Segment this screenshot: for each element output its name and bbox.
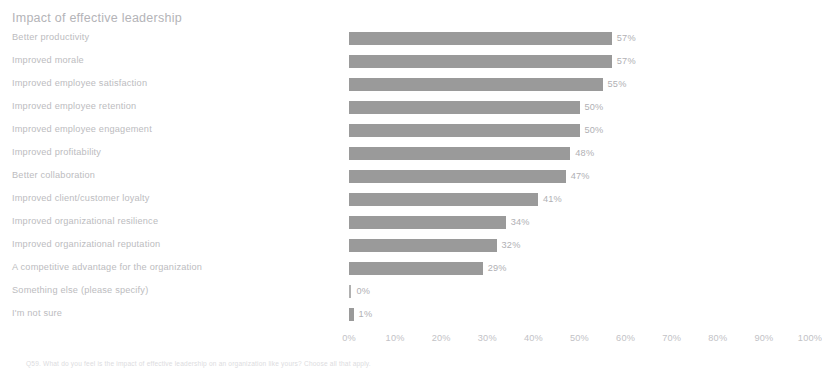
- bar-category-label: Improved employee retention: [12, 101, 136, 111]
- bar-row: Improved client/customer loyalty41%: [0, 189, 810, 212]
- bar-category-label: Improved morale: [12, 55, 84, 65]
- bar-row: Improved employee satisfaction55%: [0, 74, 810, 97]
- bar-category-label: Improved employee engagement: [12, 124, 152, 134]
- bar-value-label: 57%: [617, 33, 636, 43]
- bar-track: 34%: [349, 212, 810, 235]
- bar: [349, 147, 570, 160]
- x-axis-tick-label: 20%: [432, 333, 451, 343]
- bar: [349, 78, 603, 91]
- bar-track: 48%: [349, 143, 810, 166]
- bar-row: Something else (please specify)0%: [0, 281, 810, 304]
- bar-category-label: Better collaboration: [12, 170, 95, 180]
- bar: [349, 170, 566, 183]
- bar-value-label: 1%: [359, 309, 373, 319]
- bar-track: 57%: [349, 51, 810, 74]
- bar-row: I'm not sure1%: [0, 304, 810, 327]
- x-axis-tick-label: 90%: [754, 333, 773, 343]
- bar-category-label: I'm not sure: [12, 308, 62, 318]
- bar: [349, 239, 497, 252]
- bar-row: Improved organizational resilience34%: [0, 212, 810, 235]
- bar-track: 55%: [349, 74, 810, 97]
- bar-track: 57%: [349, 28, 810, 51]
- bar-chart-plot-area: Better productivity57%Improved morale57%…: [0, 28, 810, 333]
- bar-value-label: 41%: [543, 194, 562, 204]
- bar: [349, 262, 483, 275]
- bar-row: Improved profitability48%: [0, 143, 810, 166]
- bar-track: 29%: [349, 258, 810, 281]
- bar: [349, 216, 506, 229]
- bar-track: 41%: [349, 189, 810, 212]
- bar-track: 47%: [349, 166, 810, 189]
- clipped-header-artifact: [0, 0, 810, 9]
- bar-value-label: 50%: [585, 125, 604, 135]
- bar-track: 50%: [349, 97, 810, 120]
- x-axis: 0%10%20%30%40%50%60%70%80%90%100%: [349, 333, 810, 349]
- bar-value-label: 0%: [357, 286, 371, 296]
- bar-category-label: Improved client/customer loyalty: [12, 193, 150, 203]
- chart-footnote: Q59. What do you feel is the impact of e…: [26, 360, 371, 367]
- bar-row: Improved organizational reputation32%: [0, 235, 810, 258]
- x-axis-tick-label: 100%: [798, 333, 822, 343]
- x-axis-tick-label: 80%: [708, 333, 727, 343]
- bar: [349, 193, 538, 206]
- bar: [349, 101, 580, 114]
- x-axis-tick-label: 50%: [570, 333, 589, 343]
- x-axis-tick-label: 30%: [478, 333, 497, 343]
- x-axis-tick-label: 60%: [616, 333, 635, 343]
- bar-row: Improved morale57%: [0, 51, 810, 74]
- x-axis-tick-label: 10%: [386, 333, 405, 343]
- bar-value-label: 57%: [617, 56, 636, 66]
- bar: [349, 285, 351, 298]
- bar: [349, 124, 580, 137]
- bar-track: 32%: [349, 235, 810, 258]
- bar-track: 0%: [349, 281, 810, 304]
- bar-value-label: 55%: [608, 79, 627, 89]
- bar-category-label: A competitive advantage for the organiza…: [12, 262, 202, 272]
- bar-category-label: Something else (please specify): [12, 285, 148, 295]
- bar-value-label: 48%: [575, 148, 594, 158]
- x-axis-tick-label: 40%: [524, 333, 543, 343]
- chart-title: Impact of effective leadership: [12, 11, 182, 25]
- bar-category-label: Improved organizational reputation: [12, 239, 160, 249]
- bar: [349, 55, 612, 68]
- bar-value-label: 50%: [585, 102, 604, 112]
- bar-row: Better productivity57%: [0, 28, 810, 51]
- bar-value-label: 47%: [571, 171, 590, 181]
- bar-row: Improved employee engagement50%: [0, 120, 810, 143]
- bar-row: A competitive advantage for the organiza…: [0, 258, 810, 281]
- bar: [349, 32, 612, 45]
- bar-track: 1%: [349, 304, 810, 327]
- bar-category-label: Better productivity: [12, 32, 89, 42]
- bar-category-label: Improved employee satisfaction: [12, 78, 147, 88]
- bar-track: 50%: [349, 120, 810, 143]
- bar-row: Improved employee retention50%: [0, 97, 810, 120]
- bar-row: Better collaboration47%: [0, 166, 810, 189]
- bar-category-label: Improved organizational resilience: [12, 216, 158, 226]
- bar: [349, 308, 354, 321]
- bar-value-label: 29%: [488, 263, 507, 273]
- x-axis-tick-label: 70%: [662, 333, 681, 343]
- bar-value-label: 34%: [511, 217, 530, 227]
- bar-value-label: 32%: [502, 240, 521, 250]
- bar-category-label: Improved profitability: [12, 147, 101, 157]
- x-axis-tick-label: 0%: [342, 333, 356, 343]
